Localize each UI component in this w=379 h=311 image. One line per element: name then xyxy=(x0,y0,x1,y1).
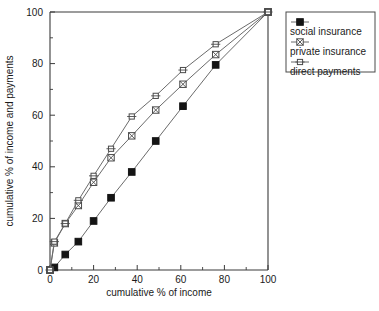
data-point xyxy=(212,51,218,57)
legend-label: direct payments xyxy=(290,66,361,77)
data-point xyxy=(128,169,135,176)
data-point xyxy=(75,238,82,245)
legend-marker-crossed-square xyxy=(297,39,303,45)
data-point xyxy=(62,251,69,258)
data-point xyxy=(129,133,135,139)
chart-svg: 020406080100020406080100 cumulative % of… xyxy=(0,0,379,311)
y-tick-label: 100 xyxy=(26,7,43,18)
y-tick-label: 80 xyxy=(32,58,44,69)
x-tick-label: 100 xyxy=(260,274,277,285)
x-tick-label: 40 xyxy=(132,274,144,285)
y-tick-label: 40 xyxy=(32,161,44,172)
data-point xyxy=(108,155,114,161)
y-tick-label: 60 xyxy=(32,110,44,121)
legend: social insuranceprivate insurancedirect … xyxy=(286,12,375,77)
data-point xyxy=(153,107,159,113)
x-tick-label: 20 xyxy=(88,274,100,285)
data-point xyxy=(180,103,187,110)
x-tick-label: 60 xyxy=(175,274,187,285)
legend-marker-filled-square xyxy=(297,19,304,26)
legend-label: social insurance xyxy=(290,26,362,37)
legend-entries-layer: social insuranceprivate insurancedirect … xyxy=(290,19,367,77)
x-axis-title: cumulative % of income xyxy=(106,287,212,298)
data-point xyxy=(90,218,97,225)
data-point xyxy=(152,138,159,145)
legend-label: private insurance xyxy=(290,46,367,57)
y-axis-title: cumulative % of income and payments xyxy=(4,55,15,226)
data-point xyxy=(212,62,219,69)
data-point xyxy=(180,81,186,87)
x-tick-label: 80 xyxy=(219,274,231,285)
lorenz-curve-chart: 020406080100020406080100 cumulative % of… xyxy=(0,0,379,311)
y-tick-label: 20 xyxy=(32,213,44,224)
x-tick-label: 0 xyxy=(47,274,53,285)
y-tick-label: 0 xyxy=(37,265,43,276)
data-point xyxy=(108,194,115,201)
